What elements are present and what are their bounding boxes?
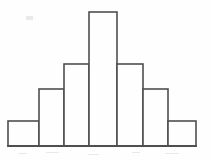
histogram-bar (168, 121, 196, 146)
histogram-bars-group (8, 12, 196, 146)
histogram-bar (143, 89, 168, 146)
histogram-bar (8, 121, 39, 146)
histogram-bar (39, 89, 64, 146)
histogram-bar (64, 64, 89, 146)
histogram-figure (0, 0, 212, 160)
histogram-svg-canvas (0, 0, 212, 160)
histogram-bar (89, 12, 117, 146)
histogram-bar (117, 64, 143, 146)
